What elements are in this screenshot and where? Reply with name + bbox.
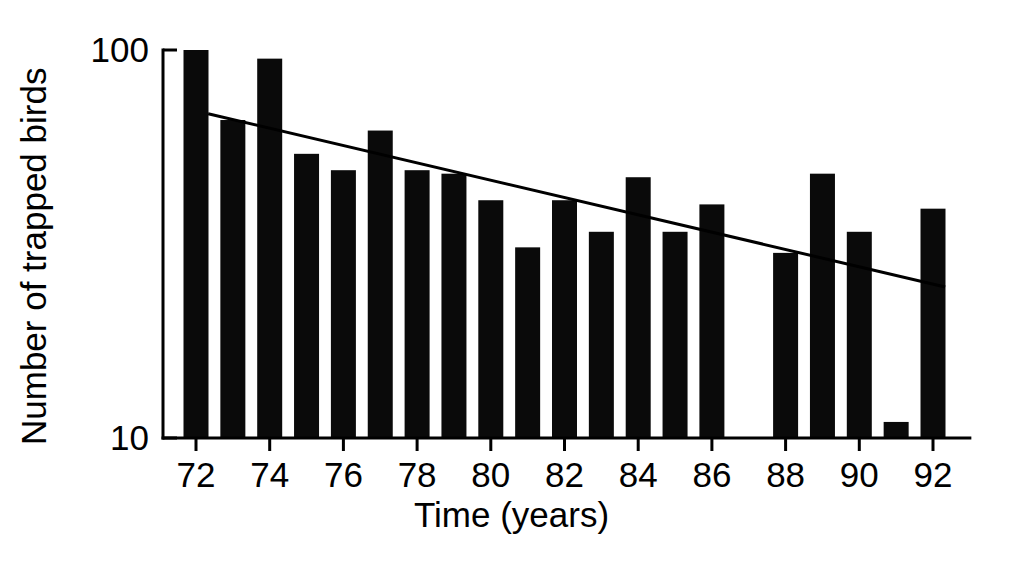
y-axis-title: Number of trapped birds: [14, 68, 54, 445]
bar-89: [810, 174, 835, 438]
x-tick-label-74: 74: [250, 455, 289, 494]
bar-90: [847, 232, 872, 438]
x-tick-label-92: 92: [914, 455, 953, 494]
bar-76: [331, 170, 356, 438]
bar-75: [294, 154, 319, 438]
x-tick-label-90: 90: [840, 455, 879, 494]
x-tick-label-86: 86: [692, 455, 731, 494]
bar-73: [220, 120, 245, 438]
bar-80: [478, 200, 503, 438]
bar-91: [884, 422, 909, 438]
x-tick-label-88: 88: [766, 455, 805, 494]
bar-85: [663, 232, 688, 438]
bar-81: [515, 247, 540, 438]
bar-92: [921, 209, 946, 438]
bar-79: [441, 174, 466, 438]
bar-86: [699, 204, 724, 438]
x-tick-label-76: 76: [324, 455, 363, 494]
bar-77: [368, 131, 393, 438]
y-tick-label-100: 100: [91, 30, 149, 69]
bar-82: [552, 200, 577, 438]
x-tick-label-82: 82: [545, 455, 584, 494]
y-tick-labels: 10010: [91, 30, 149, 457]
bar-78: [405, 170, 430, 438]
bar-74: [257, 59, 282, 438]
bar-83: [589, 232, 614, 438]
bars-group: [184, 50, 946, 438]
x-tick-label-72: 72: [177, 455, 216, 494]
y-tick-label-10: 10: [110, 418, 149, 457]
x-axis-title: Time (years): [0, 495, 1023, 535]
x-tick-label-84: 84: [619, 455, 658, 494]
plot-area: 7274767880828486889092 10010: [0, 0, 1023, 563]
bar-72: [184, 50, 209, 438]
x-tick-label-78: 78: [398, 455, 437, 494]
x-tick-label-80: 80: [471, 455, 510, 494]
bar-88: [773, 253, 798, 438]
bar-chart-figure: 7274767880828486889092 10010 Time (years…: [0, 0, 1023, 563]
x-tick-labels: 7274767880828486889092: [177, 455, 953, 494]
